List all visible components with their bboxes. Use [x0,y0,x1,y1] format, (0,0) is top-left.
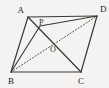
vertex-label-C: C [78,76,84,86]
vertex-label-B: B [8,76,14,86]
vertex-label-D: D [100,4,107,14]
point-label-P: P [39,18,44,27]
vertex-label-A: A [18,5,25,15]
geometry-figure: A D B C P O [0,0,109,88]
point-label-O: O [50,45,56,54]
figure-canvas: A D B C P O [0,0,109,88]
